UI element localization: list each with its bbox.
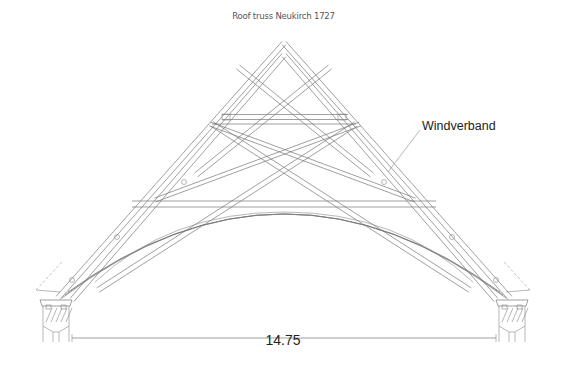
- left-inner-rafter-edge: [70, 53, 282, 298]
- span-dimension-value: 14.75: [265, 332, 300, 348]
- right-wall-support-cap: [496, 300, 528, 306]
- left-wall-support: [40, 300, 72, 342]
- left-inner-rafter-edge: [74, 57, 286, 302]
- lower-brace-right-edge: [211, 122, 416, 198]
- right-inner-rafter-edge: [286, 53, 498, 298]
- right-wall-support-hatch-2: [512, 308, 518, 322]
- arch-line-0: [62, 214, 506, 298]
- peg-1: [182, 180, 187, 185]
- roof-truss-drawing: Windverband 14.75: [0, 0, 567, 365]
- long-brace-right-down-edge: [97, 122, 355, 288]
- left-wall-support-cap: [40, 300, 72, 306]
- arch-soffit: [95, 212, 473, 282]
- right-wall-support-hatch-3: [517, 308, 523, 322]
- right-eave-dash: [504, 262, 530, 290]
- pegs: [70, 180, 499, 283]
- lower-brace-right: [209, 122, 415, 202]
- right-rafter-edge: [282, 45, 508, 300]
- left-wall-support-hatch-2: [56, 308, 62, 322]
- right-rafter-edge: [286, 41, 512, 296]
- left-rafter-edge: [60, 45, 286, 300]
- right-wall-support: [496, 300, 528, 342]
- right-inner-rafter: [282, 53, 498, 301]
- right-wall-support-taper: [499, 326, 525, 332]
- lower-brace-left: [154, 122, 360, 202]
- right-rafter: [282, 41, 512, 299]
- long-brace-left-down-edge: [211, 126, 469, 292]
- upper-right-to-left-brace-edge: [194, 65, 328, 173]
- lower-collar-beam: [132, 201, 436, 207]
- right-inner-rafter-edge: [282, 57, 494, 302]
- left-wall-support-taper: [43, 326, 69, 332]
- left-wall-support-block-left: [46, 305, 51, 309]
- long-brace-left-down-edge: [213, 122, 471, 288]
- left-eave-edge: [36, 290, 60, 292]
- windverband-leader-line: [388, 130, 420, 172]
- left-rafter-edge: [56, 41, 282, 296]
- lower-brace-left-edge: [154, 122, 359, 198]
- arch-line-1: [65, 214, 503, 295]
- long-brace-right-down-edge: [99, 126, 357, 292]
- arched-braces: [62, 212, 506, 298]
- upper-left-to-right-brace-edge: [240, 65, 374, 173]
- lower-brace-right-edge: [209, 126, 414, 202]
- left-wall-support-hatch-3: [61, 308, 67, 322]
- right-wall-support-block-left: [502, 305, 507, 309]
- rafters: [36, 41, 530, 301]
- right-wall-support-hatch-1: [507, 308, 513, 322]
- left-rafter: [56, 41, 286, 299]
- peg-2: [382, 180, 387, 185]
- windverband-label: Windverband: [422, 119, 496, 133]
- left-inner-rafter: [70, 53, 286, 301]
- upper-collar-beam: [222, 115, 348, 120]
- left-wall-support-hatch-0: [46, 308, 52, 322]
- left-wall-support-hatch-1: [51, 308, 57, 322]
- right-wall-support-hatch-0: [502, 308, 508, 322]
- peg-3: [450, 235, 455, 240]
- right-eave-edge: [506, 290, 530, 292]
- cross-braces: [97, 65, 472, 292]
- left-eave-dash: [36, 262, 62, 290]
